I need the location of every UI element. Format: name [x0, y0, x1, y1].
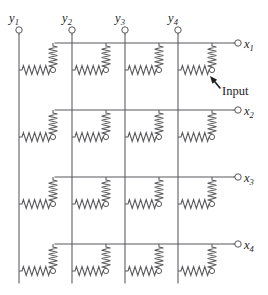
- cell-r3-c3-horizontal-resistor: [125, 200, 159, 209]
- cell-r2-c2-horizontal-resistor: [72, 133, 106, 142]
- cell-r4-c4: [178, 244, 216, 275]
- cell-r1-c2-horizontal-resistor: [72, 66, 106, 75]
- cell-r2-c1-junction-node: [50, 134, 55, 139]
- column-terminal-y4[interactable]: [175, 27, 181, 33]
- cell-r3-c4-horizontal-resistor: [178, 200, 212, 209]
- resistor-crossbar-array-figure: Input y1y2y3y4x1x2x3x4: [0, 0, 268, 295]
- cell-r4-c2: [72, 244, 110, 275]
- cell-r2-c3: [125, 110, 163, 141]
- cell-r3-c2-vertical-resistor: [102, 177, 111, 204]
- column-label-y4: y4: [166, 11, 179, 27]
- cell-r1-c2-vertical-resistor: [102, 43, 111, 70]
- cell-r4-c4-junction-node: [209, 268, 214, 273]
- row-label-x4: x4: [243, 238, 255, 254]
- column-label-y2: y2: [60, 11, 73, 27]
- cell-r4-c2-vertical-resistor: [102, 244, 111, 271]
- cell-r3-c3-vertical-resistor: [155, 177, 164, 204]
- cell-r4-c3: [125, 244, 163, 275]
- cell-r2-c2-junction-node: [103, 134, 108, 139]
- cell-r2-c1-horizontal-resistor: [19, 133, 53, 142]
- input-label: Input: [222, 84, 249, 98]
- cell-r2-c4-junction-node: [209, 134, 214, 139]
- cell-r3-c1-junction-node: [50, 201, 55, 206]
- cell-r1-c3: [125, 43, 163, 74]
- cell-r4-c1-vertical-resistor: [49, 244, 58, 271]
- cell-r1-c1-junction-node: [50, 67, 55, 72]
- cell-r1-c1: [19, 43, 57, 74]
- row-terminal-x1[interactable]: [235, 40, 241, 46]
- cell-r2-c3-junction-node: [156, 134, 161, 139]
- cell-r4-c3-vertical-resistor: [155, 244, 164, 271]
- row-label-x3: x3: [243, 171, 254, 187]
- cell-r3-c3: [125, 177, 163, 208]
- cell-r1-c4-horizontal-resistor: [178, 66, 212, 75]
- cell-r2-c4-vertical-resistor: [208, 110, 217, 137]
- cell-r4-c2-junction-node: [103, 268, 108, 273]
- cell-r2-c3-vertical-resistor: [155, 110, 164, 137]
- row-terminal-x3[interactable]: [235, 174, 241, 180]
- cell-r3-c2-junction-node: [103, 201, 108, 206]
- cell-r4-c1-junction-node: [50, 268, 55, 273]
- column-terminal-y1[interactable]: [16, 27, 22, 33]
- cell-r4-c4-horizontal-resistor: [178, 267, 212, 276]
- cell-r3-c4-vertical-resistor: [208, 177, 217, 204]
- cell-r4-c4-vertical-resistor: [208, 244, 217, 271]
- schematic-canvas: Input y1y2y3y4x1x2x3x4: [0, 0, 268, 295]
- cell-r4-c3-junction-node: [156, 268, 161, 273]
- column-terminal-y2[interactable]: [69, 27, 75, 33]
- cell-r1-c2-junction-node: [103, 67, 108, 72]
- cell-r1-c3-horizontal-resistor: [125, 66, 159, 75]
- cell-r3-c3-junction-node: [156, 201, 161, 206]
- cell-r2-c4: [178, 110, 216, 141]
- cell-r4-c1: [19, 244, 57, 275]
- cell-r2-c4-horizontal-resistor: [178, 133, 212, 142]
- cell-r1-c3-vertical-resistor: [155, 43, 164, 70]
- cell-r2-c2: [72, 110, 110, 141]
- cell-r3-c4: [178, 177, 216, 208]
- cell-r1-c1-vertical-resistor: [49, 43, 58, 70]
- cell-r2-c2-vertical-resistor: [102, 110, 111, 137]
- cell-r4-c2-horizontal-resistor: [72, 267, 106, 276]
- cell-r3-c1-vertical-resistor: [49, 177, 58, 204]
- labels-group: y1y2y3y4x1x2x3x4: [7, 11, 254, 254]
- cell-r2-c1-vertical-resistor: [49, 110, 58, 137]
- cell-r4-c3-horizontal-resistor: [125, 267, 159, 276]
- row-terminal-x2[interactable]: [235, 107, 241, 113]
- cell-r1-c1-horizontal-resistor: [19, 66, 53, 75]
- cell-r1-c4-vertical-resistor: [208, 43, 217, 70]
- input-arrow-shaft: [215, 82, 220, 88]
- cell-r1-c4-junction-node: [209, 67, 214, 72]
- cell-r4-c1-horizontal-resistor: [19, 267, 53, 276]
- cell-r2-c3-horizontal-resistor: [125, 133, 159, 142]
- cell-r3-c4-junction-node: [209, 201, 214, 206]
- cell-r3-c1: [19, 177, 57, 208]
- cell-r3-c2: [72, 177, 110, 208]
- column-label-y1: y1: [7, 11, 19, 27]
- cell-r1-c3-junction-node: [156, 67, 161, 72]
- row-label-x2: x2: [243, 104, 255, 120]
- row-terminal-x4[interactable]: [235, 241, 241, 247]
- cell-r1-c2: [72, 43, 110, 74]
- cell-r3-c2-horizontal-resistor: [72, 200, 106, 209]
- cell-r1-c4: [178, 43, 216, 74]
- cell-r2-c1: [19, 110, 57, 141]
- cell-r3-c1-horizontal-resistor: [19, 200, 53, 209]
- annotation-group: Input: [210, 76, 249, 98]
- column-label-y3: y3: [113, 11, 125, 27]
- column-terminal-y3[interactable]: [122, 27, 128, 33]
- cells-group: [19, 43, 216, 275]
- row-label-x1: x1: [243, 37, 254, 53]
